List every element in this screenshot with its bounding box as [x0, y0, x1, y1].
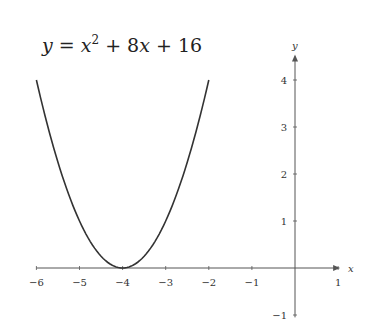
tick-labels: −6−5−4−3−2−11−11234 [29, 75, 341, 321]
x-axis-arrow-icon [333, 265, 340, 271]
function-plot: y = x2 + 8x + 16 −6−5−4−3−2−11−11234 x y [0, 0, 375, 331]
x-tick-label: −2 [201, 277, 216, 288]
y-tick-label: 4 [281, 75, 287, 86]
y-tick-label: 3 [281, 122, 287, 133]
x-tick-label: −3 [158, 277, 173, 288]
x-tick-label: −6 [29, 277, 44, 288]
x-tick-label: −1 [245, 277, 260, 288]
chart-title: y = x2 + 8x + 16 [41, 33, 202, 56]
y-axis-label: y [291, 40, 298, 51]
x-tick-label: −5 [72, 277, 87, 288]
x-tick-label: 1 [335, 277, 341, 288]
y-axis-arrow-icon [292, 55, 298, 62]
y-tick-label: −1 [272, 310, 287, 321]
x-tick-label: −4 [115, 277, 130, 288]
y-tick-label: 1 [281, 216, 287, 227]
parabola-curve [36, 80, 208, 268]
y-tick-label: 2 [281, 169, 287, 180]
x-axis-label: x [348, 263, 354, 274]
